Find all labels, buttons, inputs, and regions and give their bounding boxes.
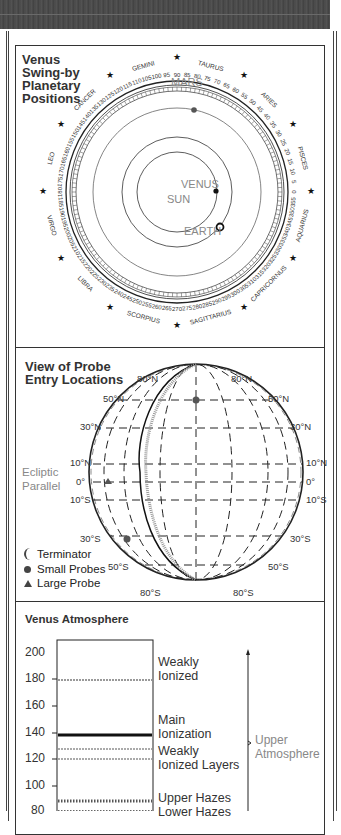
terminator-icon — [24, 548, 32, 560]
svg-text:0: 0 — [291, 190, 297, 194]
layer-line: Weakly — [158, 745, 239, 759]
region-line: Atmosphere — [255, 748, 320, 762]
svg-text:VIRGO: VIRGO — [46, 214, 58, 236]
planetary-wheel: 0510152025303540455055606570758085909510… — [15, 45, 325, 335]
svg-text:35: 35 — [269, 120, 278, 129]
lat-10n-right: 10°N — [306, 456, 327, 470]
y-tick-180: 180 — [25, 672, 45, 686]
legend-terminator: Terminator — [24, 547, 105, 562]
ecliptic-line: Ecliptic — [22, 466, 60, 480]
lat-10n-left: 10°N — [70, 456, 91, 470]
lat-30s-right: 30°S — [290, 532, 311, 546]
lat-80n-left: 80°N — [137, 372, 158, 386]
lat-30s-left: 30°S — [80, 532, 101, 546]
lat-50n-right: 50°N — [268, 392, 289, 406]
layer-weakly-ionized: Weakly Ionized — [158, 656, 199, 683]
svg-text:★: ★ — [240, 302, 248, 312]
lat-80s-left: 80°S — [140, 586, 161, 600]
svg-text:CAPRICORNUS: CAPRICORNUS — [249, 263, 288, 302]
svg-text:LIBRA: LIBRA — [77, 274, 96, 293]
legend-label: Large Probe — [37, 577, 100, 589]
y-tick-200: 200 — [25, 646, 45, 660]
svg-text:LEO: LEO — [46, 151, 56, 165]
svg-text:70: 70 — [213, 78, 222, 86]
y-tick-120: 120 — [25, 752, 45, 766]
small-probe-north — [193, 397, 200, 404]
mars-dot — [191, 107, 197, 113]
legend-label: Small Probes — [37, 563, 105, 575]
probe-legend: Terminator Small Probes Large Probe — [24, 547, 105, 591]
svg-text:★: ★ — [57, 253, 65, 263]
svg-text:30: 30 — [274, 129, 283, 138]
svg-text:180: 180 — [57, 186, 63, 197]
layer-weakly-ionized-layers: Weakly Ionized Layers — [158, 745, 239, 772]
svg-text:25: 25 — [279, 138, 288, 147]
svg-text:75: 75 — [203, 75, 212, 83]
svg-text:60: 60 — [231, 86, 240, 95]
svg-text:★: ★ — [39, 186, 47, 196]
large-probe — [104, 478, 112, 484]
svg-text:SAGITTARIUS: SAGITTARIUS — [189, 308, 233, 326]
legend-label: Terminator — [37, 548, 91, 560]
svg-text:15: 15 — [287, 158, 295, 167]
svg-text:★: ★ — [289, 119, 297, 129]
svg-text:★: ★ — [173, 52, 181, 62]
ecliptic-line: Parallel — [22, 480, 60, 494]
layer-line: Ionized — [158, 670, 199, 684]
svg-text:170: 170 — [58, 166, 66, 178]
svg-text:100: 100 — [151, 72, 163, 80]
svg-text:★: ★ — [173, 320, 181, 330]
svg-text:AQUARIUS: AQUARIUS — [294, 208, 311, 244]
lat-10s-left: 10°S — [70, 493, 91, 507]
lat-80n-right: 80°N — [231, 372, 252, 386]
y-tick-100: 100 — [25, 779, 45, 793]
lat-30n-right: 30°N — [290, 420, 311, 434]
svg-text:5: 5 — [291, 180, 297, 185]
svg-text:★: ★ — [289, 253, 297, 263]
lat-50s-right: 50°S — [268, 560, 289, 574]
triangle-icon — [24, 580, 32, 587]
svg-text:355: 355 — [290, 196, 297, 207]
svg-text:95: 95 — [163, 72, 171, 79]
mars-label: MARS — [171, 76, 203, 90]
venus-label: VENUS — [181, 178, 219, 192]
lat-80s-right: 80°S — [233, 586, 254, 600]
legend-large-probe: Large Probe — [24, 576, 105, 591]
layer-line: Ionization — [158, 728, 212, 742]
small-probe-south — [124, 536, 131, 543]
svg-text:40: 40 — [263, 112, 272, 121]
svg-text:175: 175 — [57, 176, 64, 187]
y-tick-80: 80 — [31, 804, 44, 818]
legend-small-probes: Small Probes — [24, 562, 105, 577]
svg-text:★: ★ — [240, 70, 248, 80]
layer-line: Ionized Layers — [158, 759, 239, 773]
lat-10s-right: 10°S — [306, 493, 327, 507]
lat-0-right: 0° — [306, 475, 315, 489]
svg-text:★: ★ — [106, 302, 114, 312]
svg-text:PISCES: PISCES — [297, 146, 310, 171]
ecliptic-label: Ecliptic Parallel — [22, 466, 60, 493]
y-tick-140: 140 — [25, 726, 45, 740]
layer-upper-hazes: Upper Hazes — [158, 792, 231, 806]
svg-text:20: 20 — [283, 148, 291, 157]
layer-main-ionization: Main Ionization — [158, 714, 212, 741]
lat-0-left: 0° — [76, 475, 85, 489]
lat-50n-left: 50°N — [103, 392, 124, 406]
svg-text:★: ★ — [57, 119, 65, 129]
svg-text:GEMINI: GEMINI — [131, 59, 155, 72]
region-upper-atmosphere: Upper Atmosphere — [255, 734, 320, 761]
layer-line: Weakly — [158, 656, 199, 670]
atmosphere-chart — [0, 600, 341, 811]
svg-text:TAURUS: TAURUS — [197, 59, 225, 73]
svg-text:10: 10 — [289, 168, 296, 176]
sun-label: SUN — [167, 193, 190, 207]
svg-text:45: 45 — [256, 104, 265, 113]
svg-text:SCORPIUS: SCORPIUS — [126, 309, 161, 325]
region-line: Upper — [255, 734, 320, 748]
header-band — [0, 0, 330, 29]
svg-text:★: ★ — [307, 186, 315, 196]
lat-50s-left: 50°S — [108, 560, 129, 574]
svg-text:★: ★ — [106, 70, 114, 80]
circle-icon — [24, 566, 31, 573]
svg-text:50: 50 — [248, 98, 257, 107]
